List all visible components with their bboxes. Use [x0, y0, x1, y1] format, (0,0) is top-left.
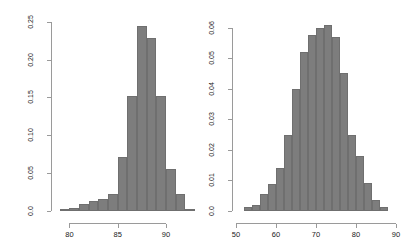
y-axis-tick-label: 0.15 [26, 84, 36, 110]
y-axis-tick-label: 0.06 [207, 15, 217, 41]
histogram-bar [137, 26, 147, 211]
y-axis-tick-label: 0.02 [207, 137, 217, 163]
y-axis-tick [228, 28, 232, 29]
histogram-bar [156, 96, 166, 211]
x-axis-tick [316, 224, 317, 228]
histogram-bar [89, 201, 99, 211]
x-axis-tick [118, 224, 119, 228]
histogram-bar [340, 73, 348, 211]
histogram-bar [372, 200, 380, 211]
panel-right-histogram: 0.00.010.020.030.040.050.065060708090 [205, 0, 410, 251]
y-axis-tick-label: 0.20 [26, 47, 36, 73]
histogram-bar [300, 52, 308, 211]
y-axis-tick [47, 60, 51, 61]
x-axis-tick-label: 85 [106, 230, 130, 239]
x-axis-tick-label: 70 [304, 230, 328, 239]
y-axis-tick [228, 119, 232, 120]
y-axis-tick [47, 135, 51, 136]
y-axis-tick [47, 22, 51, 23]
y-axis-tick-label: 0.04 [207, 76, 217, 102]
histogram-bar [364, 183, 372, 211]
histogram-bar [292, 89, 300, 211]
histogram-bar [176, 194, 186, 211]
y-axis-tick [228, 89, 232, 90]
histogram-bar [308, 35, 316, 211]
y-axis-tick [228, 150, 232, 151]
histogram-figure: 0.00.050.100.150.200.25808590 0.00.010.0… [0, 0, 410, 251]
histogram-bar [332, 37, 340, 211]
y-axis-tick [47, 211, 51, 212]
histogram-bar [60, 209, 70, 211]
panel-left-histogram: 0.00.050.100.150.200.25808590 [0, 0, 205, 251]
histogram-bar [260, 194, 268, 211]
y-axis-line [51, 22, 52, 211]
histogram-bar [118, 157, 128, 211]
y-axis-tick-label: 0.01 [207, 167, 217, 193]
histogram-bar [356, 156, 364, 211]
x-axis-tick-label: 50 [224, 230, 248, 239]
histogram-bar [108, 194, 118, 211]
y-axis-tick [47, 97, 51, 98]
y-axis-tick [228, 211, 232, 212]
x-axis-tick [166, 224, 167, 228]
plot-area-left [55, 18, 190, 211]
y-axis-tick-label: 0.05 [26, 160, 36, 186]
histogram-bar [268, 184, 276, 212]
plot-area-right [236, 20, 396, 211]
histogram-bar [316, 28, 324, 211]
y-axis-tick-label: 0.05 [207, 45, 217, 71]
x-axis-tick [69, 224, 70, 228]
x-axis-tick-label: 80 [57, 230, 81, 239]
histogram-bar [147, 38, 157, 211]
x-axis-tick-label: 80 [344, 230, 368, 239]
x-axis-tick-label: 90 [154, 230, 178, 239]
y-axis-tick [228, 58, 232, 59]
histogram-bar [380, 207, 388, 211]
y-axis-line [232, 28, 233, 211]
y-axis-tick-label: 0.0 [207, 198, 217, 224]
histogram-bar [79, 204, 89, 211]
histogram-bar [69, 208, 79, 211]
histogram-bar [185, 209, 195, 211]
x-axis-tick [396, 224, 397, 228]
histogram-bar [348, 135, 356, 211]
histogram-bar [127, 96, 137, 211]
histogram-bar [98, 199, 108, 211]
y-axis-tick-label: 0.10 [26, 122, 36, 148]
x-axis-tick-label: 90 [384, 230, 408, 239]
histogram-bar [244, 207, 252, 211]
y-axis-tick-label: 0.0 [26, 198, 36, 224]
x-axis-tick-label: 60 [264, 230, 288, 239]
y-axis-tick-label: 0.03 [207, 106, 217, 132]
x-axis-tick [276, 224, 277, 228]
histogram-bar [252, 205, 260, 211]
y-axis-tick-label: 0.25 [26, 9, 36, 35]
x-axis-tick [356, 224, 357, 228]
histogram-bar [284, 135, 292, 211]
x-axis-tick [236, 224, 237, 228]
y-axis-tick [228, 180, 232, 181]
histogram-bar [276, 168, 284, 211]
histogram-bar [324, 25, 332, 211]
histogram-bar [166, 169, 176, 211]
y-axis-tick [47, 173, 51, 174]
